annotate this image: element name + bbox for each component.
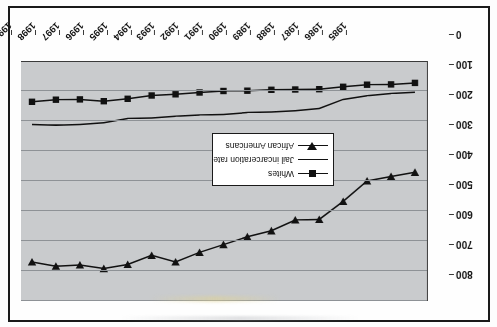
y-tick-label: 100	[456, 60, 473, 71]
y-tick-label: 500	[456, 180, 473, 191]
gridline	[21, 240, 427, 241]
gridline	[21, 120, 427, 121]
rotated-figure-container: 0100200300400500600700800 19851986198719…	[0, 0, 497, 327]
series-line	[32, 172, 415, 268]
data-point-marker	[125, 96, 131, 102]
chart-legend: Whites Jail incarceration rate African A…	[212, 133, 334, 186]
data-point-marker	[172, 91, 178, 97]
gridline	[21, 270, 427, 271]
data-point-marker	[101, 98, 107, 104]
data-point-marker	[148, 251, 156, 259]
x-tick-mark	[178, 30, 179, 35]
data-point-marker	[412, 80, 418, 86]
y-tick-label: 600	[456, 210, 473, 221]
x-tick-mark	[250, 30, 251, 35]
data-point-marker	[267, 227, 275, 235]
square-marker-icon	[298, 169, 328, 179]
x-tick-label: 1994	[111, 20, 134, 43]
y-tick-label: 200	[456, 90, 473, 101]
data-point-marker	[220, 88, 226, 94]
y-tick-mark	[449, 214, 454, 215]
y-tick-mark	[449, 274, 454, 275]
data-point-marker	[364, 82, 370, 88]
scanned-page: 0100200300400500600700800 19851986198719…	[0, 0, 497, 327]
gridline	[21, 300, 427, 301]
legend-label-whites: Whites	[268, 169, 294, 179]
y-tick-label: 400	[456, 150, 473, 161]
y-tick-label: 800	[456, 270, 473, 281]
legend-label-jail-rate: Jail incarceration rate	[213, 155, 294, 165]
plain-line-icon	[298, 155, 328, 165]
y-tick-label: 700	[456, 240, 473, 251]
gridline	[21, 210, 427, 211]
x-tick-label: 1995	[87, 20, 110, 43]
data-point-marker	[77, 96, 83, 102]
legend-item-whites: Whites	[218, 167, 328, 181]
y-tick-mark	[449, 34, 454, 35]
gridline	[21, 90, 427, 91]
line-chart: 0100200300400500600700800 19851986198719…	[21, 61, 428, 301]
x-tick-mark	[155, 30, 156, 35]
data-point-marker	[29, 99, 35, 105]
y-tick-mark	[449, 124, 454, 125]
legend-item-jail-rate: Jail incarceration rate	[218, 153, 328, 167]
x-tick-label: 1997	[39, 20, 62, 43]
y-tick-mark	[449, 154, 454, 155]
y-tick-mark	[449, 64, 454, 65]
y-tick-mark	[449, 184, 454, 185]
legend-label-african-americans: African Americans	[226, 141, 295, 151]
x-tick-mark	[226, 30, 227, 35]
x-tick-label: 1996	[63, 20, 86, 43]
y-tick-label: 0	[456, 30, 462, 41]
x-tick-mark	[274, 30, 275, 35]
legend-item-african-americans: African Americans	[218, 139, 328, 153]
y-tick-label: 300	[456, 120, 473, 131]
x-tick-mark	[202, 30, 203, 35]
y-tick-mark	[449, 244, 454, 245]
data-point-marker	[149, 92, 155, 98]
y-tick-mark	[449, 94, 454, 95]
data-point-marker	[388, 81, 394, 87]
data-point-marker	[53, 97, 59, 103]
triangle-marker-icon	[298, 141, 328, 151]
x-tick-label: 1998	[15, 20, 38, 43]
x-tick-mark	[298, 30, 299, 35]
